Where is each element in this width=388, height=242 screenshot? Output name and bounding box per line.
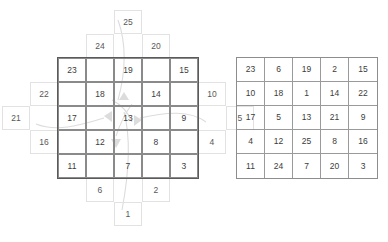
inner-cell-r3c4 — [142, 106, 170, 130]
inner-cell-r1c5: 15 — [170, 58, 198, 82]
cell-value: 6 — [98, 186, 103, 195]
inner-cell-r4c2: 12 — [86, 130, 114, 154]
magic-cell-r3c4: 21 — [321, 106, 349, 130]
cell-value: 8 — [332, 137, 337, 146]
inner-cell-r1c1: 23 — [58, 58, 86, 82]
cell-value: 6 — [276, 65, 281, 74]
magic-cell-r1c1: 23 — [237, 58, 265, 82]
cell-value: 1 — [126, 210, 131, 219]
inner-cell-r5c3: 7 — [114, 154, 142, 178]
cell-value: 19 — [123, 66, 133, 75]
inner-cell-r4c5 — [170, 130, 198, 154]
inner-cell-r1c2 — [86, 58, 114, 82]
cell-value: 20 — [330, 162, 339, 171]
outer-cell-left-16: 16 — [30, 130, 58, 154]
cell-value: 22 — [39, 90, 49, 99]
cell-value: 22 — [358, 89, 367, 98]
inner-cell-r4c1 — [58, 130, 86, 154]
cell-value: 24 — [274, 162, 283, 171]
cell-value: 3 — [182, 162, 187, 171]
cell-value: 13 — [123, 114, 133, 123]
cell-value: 9 — [182, 114, 187, 123]
magic-cell-r4c5: 16 — [349, 130, 377, 154]
magic-cell-r3c1: 17 — [237, 106, 265, 130]
cell-value: 1 — [304, 89, 309, 98]
magic-cell-r1c5: 15 — [349, 58, 377, 82]
cell-value: 4 — [210, 138, 215, 147]
inner-cell-r3c2 — [86, 106, 114, 130]
outer-cell-top-20: 20 — [142, 34, 170, 58]
magic-cell-r1c4: 2 — [321, 58, 349, 82]
cell-value: 14 — [330, 89, 339, 98]
outer-cell-top-25: 25 — [114, 10, 142, 34]
magic-cell-r1c3: 19 — [293, 58, 321, 82]
cell-value: 21 — [330, 113, 339, 122]
magic-cell-r3c5: 9 — [349, 106, 377, 130]
magic-cell-r5c1: 11 — [237, 154, 265, 178]
cell-value: 23 — [67, 66, 77, 75]
outer-cell-bottom-6: 6 — [86, 178, 114, 202]
cell-value: 16 — [358, 137, 367, 146]
cell-value: 25 — [123, 18, 133, 27]
magic-cell-r3c3: 13 — [293, 106, 321, 130]
magic-cell-r2c2: 18 — [265, 82, 293, 106]
magic-cell-r2c3: 1 — [293, 82, 321, 106]
cell-value: 20 — [151, 42, 161, 51]
cell-value: 9 — [361, 113, 366, 122]
cell-value: 18 — [95, 90, 105, 99]
cell-value: 18 — [274, 89, 283, 98]
cell-value: 5 — [276, 113, 281, 122]
cell-value: 10 — [246, 89, 255, 98]
cell-value: 21 — [11, 114, 21, 123]
cell-value: 11 — [67, 162, 76, 171]
inner-cell-r2c1 — [58, 82, 86, 106]
inner-cell-r1c3: 19 — [114, 58, 142, 82]
magic-cell-r5c2: 24 — [265, 154, 293, 178]
cell-value: 7 — [304, 162, 309, 171]
inner-cell-r1c4 — [142, 58, 170, 82]
inner-cell-r5c4 — [142, 154, 170, 178]
cell-value: 8 — [154, 138, 159, 147]
cell-value: 2 — [332, 65, 337, 74]
outer-cell-right-4: 4 — [198, 130, 226, 154]
cell-value: 7 — [126, 162, 131, 171]
inner-cell-r4c3 — [114, 130, 142, 154]
magic-cell-r4c4: 8 — [321, 130, 349, 154]
cell-value: 19 — [302, 65, 311, 74]
inner-cell-r2c2: 18 — [86, 82, 114, 106]
cell-value: 12 — [95, 138, 105, 147]
magic-cell-r4c1: 4 — [237, 130, 265, 154]
magic-cell-r3c2: 5 — [265, 106, 293, 130]
cell-value: 14 — [151, 90, 161, 99]
inner-cell-r5c5: 3 — [170, 154, 198, 178]
inner-cell-r3c1: 17 — [58, 106, 86, 130]
cell-value: 25 — [302, 137, 311, 146]
magic-cell-r2c1: 10 — [237, 82, 265, 106]
inner-cell-r2c5 — [170, 82, 198, 106]
cell-value: 17 — [246, 113, 255, 122]
cell-value: 16 — [39, 138, 49, 147]
magic-cell-r5c3: 7 — [293, 154, 321, 178]
magic-cell-r2c4: 14 — [321, 82, 349, 106]
cell-value: 11 — [246, 162, 255, 171]
inner-cell-r2c3 — [114, 82, 142, 106]
figure-canvas: 2319151814171391281173252420222116105462… — [0, 0, 388, 242]
cell-value: 23 — [246, 65, 255, 74]
cell-value: 24 — [95, 42, 105, 51]
cell-value: 15 — [358, 65, 367, 74]
outer-cell-left-21: 21 — [2, 106, 30, 130]
inner-cell-r5c1: 11 — [58, 154, 86, 178]
inner-cell-r2c4: 14 — [142, 82, 170, 106]
magic-cell-r1c2: 6 — [265, 58, 293, 82]
inner-cell-r4c4: 8 — [142, 130, 170, 154]
cell-value: 3 — [361, 162, 366, 171]
magic-cell-r5c4: 20 — [321, 154, 349, 178]
outer-cell-left-22: 22 — [30, 82, 58, 106]
outer-cell-bottom-2: 2 — [142, 178, 170, 202]
outer-cell-top-24: 24 — [86, 34, 114, 58]
cell-value: 2 — [154, 186, 159, 195]
magic-cell-r4c2: 12 — [265, 130, 293, 154]
cell-value: 4 — [248, 137, 253, 146]
magic-cell-r2c5: 22 — [349, 82, 377, 106]
inner-cell-r3c3: 13 — [114, 106, 142, 130]
